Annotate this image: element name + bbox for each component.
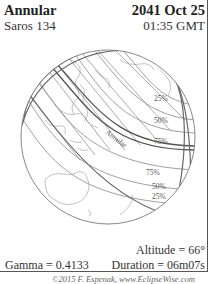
altitude-value: Altitude = 66°: [136, 243, 205, 258]
eclipse-type-title: Annular: [4, 2, 56, 19]
saros-number: Saros 134: [4, 18, 56, 34]
north-50-label: 50%: [154, 116, 168, 125]
south-75-label: 75%: [146, 168, 160, 177]
south-25-label: 25%: [152, 192, 166, 201]
north-25-label: 25%: [154, 94, 168, 103]
eclipse-time: 01:35 GMT: [143, 18, 205, 34]
south-50-label: 50%: [152, 182, 166, 191]
gamma-value: Gamma = 0.4133: [5, 258, 89, 273]
north-75-label: 75%: [154, 137, 168, 146]
copyright-credit: ©2015 F. Espenak, www.EclipseWise.com: [52, 274, 195, 284]
eclipse-date: 2041 Oct 25: [132, 2, 205, 19]
eclipse-globe-map: 25% 50% 75% 75% 50% 25% Annular: [0, 0, 211, 284]
duration-value: Duration = 06m07s: [112, 258, 205, 273]
